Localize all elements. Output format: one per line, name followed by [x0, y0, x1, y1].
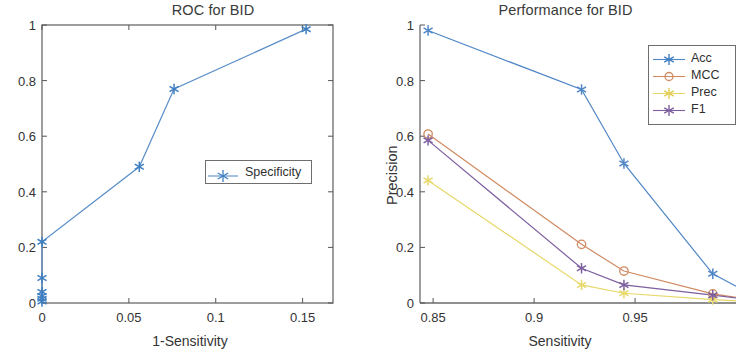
performance-y-axis-title: Precision	[384, 145, 400, 205]
roc-panel: ROC for BID 00.20.40.60.81 00.050.10.15 …	[0, 0, 370, 362]
legend-item-acc: Acc	[652, 49, 732, 66]
legend-label-prec: Prec	[686, 85, 717, 99]
roc-y-tick: 0	[0, 296, 36, 311]
performance-y-tick: 1	[378, 18, 414, 33]
legend-item-specificity: Specificity	[206, 161, 311, 183]
legend-label-acc: Acc	[686, 51, 712, 65]
performance-y-tick: 0.2	[378, 240, 414, 255]
legend-marker-specificity	[206, 165, 240, 179]
roc-x-tick: 0.05	[116, 310, 141, 325]
legend-item-f1: F1	[652, 100, 732, 117]
legend-item-mcc: MCC	[652, 66, 732, 83]
performance-y-tick: 0	[378, 296, 414, 311]
performance-x-tick: 0.9	[525, 310, 543, 325]
roc-y-tick: 0.2	[0, 240, 36, 255]
performance-x-tick: 0.85	[420, 310, 445, 325]
performance-x-axis-title: Sensitivity	[528, 333, 591, 349]
legend-marker-prec	[652, 85, 686, 99]
legend-label-mcc: MCC	[686, 68, 719, 82]
legend-label-specificity: Specificity	[240, 165, 301, 179]
roc-x-tick: 0.15	[290, 310, 315, 325]
performance-panel: Performance for BID 00.20.40.60.81 0.850…	[370, 0, 741, 362]
roc-x-tick: 0	[38, 310, 45, 325]
roc-y-tick: 1	[0, 18, 36, 33]
legend-marker-acc	[652, 51, 686, 65]
legend-label-f1: F1	[686, 102, 706, 116]
performance-x-tick: 0.95	[622, 310, 647, 325]
roc-x-tick: 0.1	[207, 310, 225, 325]
legend-item-prec: Prec	[652, 83, 732, 100]
performance-y-tick: 0.8	[378, 73, 414, 88]
roc-x-axis-title: 1-Sensitivity	[152, 333, 227, 349]
roc-legend: Specificity	[205, 160, 312, 184]
performance-legend: Acc MCC	[648, 45, 736, 125]
legend-marker-f1	[652, 102, 686, 116]
roc-y-tick: 0.8	[0, 73, 36, 88]
legend-marker-mcc	[652, 68, 686, 82]
roc-y-tick: 0.4	[0, 184, 36, 199]
roc-plot-area	[0, 0, 370, 362]
performance-y-tick: 0.6	[378, 129, 414, 144]
roc-y-tick: 0.6	[0, 129, 36, 144]
figure-container: ROC for BID 00.20.40.60.81 00.050.10.15 …	[0, 0, 741, 362]
